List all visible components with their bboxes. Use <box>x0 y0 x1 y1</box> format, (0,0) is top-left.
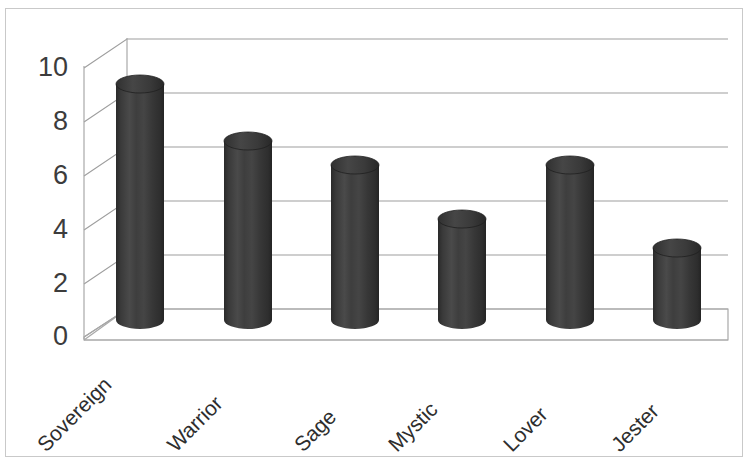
ytick-label-6: 6 <box>12 162 68 189</box>
gridlines <box>84 39 728 337</box>
ytick-label-10: 10 <box>12 54 68 81</box>
ytick-label-4: 4 <box>12 216 68 243</box>
bar-sage[interactable] <box>331 156 379 329</box>
ytick-label-2: 2 <box>12 270 68 297</box>
bar-sovereign[interactable] <box>116 75 164 329</box>
bar-mystic[interactable] <box>438 210 486 329</box>
chart-plot-area <box>0 0 749 465</box>
bar-lover[interactable] <box>546 156 594 329</box>
ytick-label-0: 0 <box>12 323 68 350</box>
ytick-label-8: 8 <box>12 108 68 135</box>
bar-group <box>116 75 701 329</box>
bar-jester[interactable] <box>653 239 701 329</box>
chart-screenshot: 10 8 6 4 2 0 Sovereign Warrior Sage Myst… <box>0 0 749 465</box>
bar-warrior[interactable] <box>224 132 272 329</box>
floor-plane <box>84 309 728 340</box>
